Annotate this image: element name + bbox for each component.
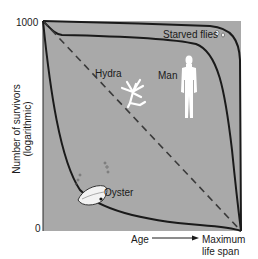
y-tick-0: 0 [35,223,41,234]
survivorship-chart [0,0,258,259]
annotation-starved-flies: Starved flies [163,29,218,40]
annotation-oyster: Oyster [104,187,133,198]
x-axis-label-maximum: Maximum [202,234,245,245]
x-axis-label-age: Age [131,234,149,245]
annotation-hydra: Hydra [95,68,122,79]
arrow-right-icon [192,236,199,241]
y-tick-1000: 1000 [16,17,38,28]
annotation-man: Man [158,70,177,81]
y-axis-label-line2: (logarithmic) [22,69,33,189]
y-axis-label-line1: Number of survivors [11,69,22,189]
x-axis-label-life-span: life span [202,246,239,257]
y-axis-label: Number of survivors (logarithmic) [11,69,33,189]
